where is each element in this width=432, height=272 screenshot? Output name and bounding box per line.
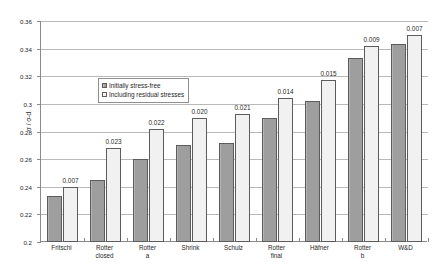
bar-value-label: 0.007 xyxy=(63,177,79,184)
x-axis-tick xyxy=(84,238,85,242)
y-axis-tick xyxy=(37,242,41,243)
x-axis-tick xyxy=(127,238,128,242)
y-axis-tick-label: 0.34 xyxy=(20,45,32,52)
x-axis-tick xyxy=(256,238,257,242)
x-axis-tick xyxy=(170,238,171,242)
bar-group xyxy=(262,21,293,242)
plot-area: 0.0070.0230.0220.0200.0210.0140.0150.009… xyxy=(40,21,427,242)
x-axis-tick xyxy=(213,238,214,242)
bar-including-residual-stresses[interactable] xyxy=(149,129,164,242)
x-axis-tick-label: Rotter a xyxy=(126,244,169,259)
x-axis-tick-label: Häfner xyxy=(298,244,341,252)
bar-including-residual-stresses[interactable] xyxy=(63,187,78,242)
bar-initially-stress-free[interactable] xyxy=(391,44,406,242)
bar-including-residual-stresses[interactable] xyxy=(235,114,250,242)
bar-value-label: 0.021 xyxy=(235,104,251,111)
x-axis-tick xyxy=(428,238,429,242)
bar-initially-stress-free[interactable] xyxy=(262,118,277,242)
x-axis-tick-label: Shrink xyxy=(169,244,212,252)
bar-group xyxy=(391,21,422,242)
bar-initially-stress-free[interactable] xyxy=(47,196,62,242)
legend-item: Initially stress-free xyxy=(102,81,184,90)
legend-item: Including residual stresses xyxy=(102,90,184,99)
bar-including-residual-stresses[interactable] xyxy=(321,80,336,242)
x-axis-tick xyxy=(342,238,343,242)
bar-including-residual-stresses[interactable] xyxy=(407,35,422,242)
bar-value-label: 0.007 xyxy=(407,25,423,32)
bar-group xyxy=(348,21,379,242)
y-axis-tick-label: 0.24 xyxy=(20,183,32,190)
x-axis-tick-label: Schulz xyxy=(212,244,255,252)
legend-item-label: Initially stress-free xyxy=(109,82,161,89)
bar-initially-stress-free[interactable] xyxy=(90,180,105,242)
x-axis-tick-label: Rotter closed xyxy=(83,244,126,259)
bar-group xyxy=(305,21,336,242)
bar-group xyxy=(90,21,121,242)
x-axis-tick-label: W&D xyxy=(384,244,427,252)
bar-including-residual-stresses[interactable] xyxy=(106,148,121,242)
bar-including-residual-stresses[interactable] xyxy=(192,118,207,242)
y-axis-title: σ / σ-d xyxy=(25,92,32,152)
y-axis-tick-label: 0.2 xyxy=(23,239,32,246)
bar-including-residual-stresses[interactable] xyxy=(364,46,379,242)
x-axis-tick-labels: FritschiRotter closedRotter aShrinkSchul… xyxy=(40,244,427,264)
bar-initially-stress-free[interactable] xyxy=(305,101,320,242)
y-axis-tick-label: 0.36 xyxy=(20,18,32,25)
legend: Initially stress-free Including residual… xyxy=(98,78,189,103)
bar-value-label: 0.014 xyxy=(278,88,294,95)
bar-group xyxy=(219,21,250,242)
y-axis-tick-label: 0.22 xyxy=(20,211,32,218)
bar-value-label: 0.009 xyxy=(364,36,380,43)
x-axis-tick-label: Rotter b xyxy=(341,244,384,259)
y-axis-tick-labels: 0.20.220.240.260.280.30.320.340.36 xyxy=(0,21,38,242)
bar-initially-stress-free[interactable] xyxy=(219,143,234,242)
legend-swatch-icon xyxy=(102,92,107,97)
bar-value-label: 0.023 xyxy=(106,138,122,145)
x-axis-tick-label: Rotter final xyxy=(255,244,298,259)
bar-series-container: 0.0070.0230.0220.0200.0210.0140.0150.009… xyxy=(41,21,428,242)
bar-value-label: 0.015 xyxy=(321,70,337,77)
bar-value-label: 0.020 xyxy=(192,108,208,115)
legend-item-label: Including residual stresses xyxy=(109,91,184,98)
figure: 0.20.220.240.260.280.30.320.340.36 σ / σ… xyxy=(0,0,432,272)
bar-initially-stress-free[interactable] xyxy=(133,159,148,242)
bar-including-residual-stresses[interactable] xyxy=(278,98,293,242)
bar-group xyxy=(176,21,207,242)
y-axis-tick-label: 0.26 xyxy=(20,156,32,163)
y-axis-tick-label: 0.32 xyxy=(20,73,32,80)
bar-group xyxy=(47,21,78,242)
bar-group xyxy=(133,21,164,242)
legend-swatch-icon xyxy=(102,83,107,88)
bar-value-label: 0.022 xyxy=(149,119,165,126)
bar-initially-stress-free[interactable] xyxy=(176,145,191,242)
bar-initially-stress-free[interactable] xyxy=(348,58,363,242)
x-axis-tick xyxy=(299,238,300,242)
x-axis-tick xyxy=(385,238,386,242)
x-axis-tick-label: Fritschi xyxy=(40,244,83,252)
